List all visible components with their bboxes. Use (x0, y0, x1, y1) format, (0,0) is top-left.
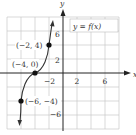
y-axis-label: y (59, 0, 65, 8)
x-axis: x (0, 70, 136, 79)
point-marker (46, 42, 51, 47)
x-tick-label: 6 (103, 77, 108, 86)
x-axis-arrow-icon (124, 71, 131, 76)
y-tick-label: −6 (50, 110, 61, 119)
curve-arrow-up-icon (50, 20, 55, 27)
y-tick-label: 2 (55, 56, 60, 65)
y-axis-arrow-icon (61, 9, 66, 16)
point-label: (−6, −4) (25, 97, 58, 106)
point-marker (18, 98, 23, 103)
x-tick-label: −2 (44, 77, 55, 86)
point-marker (32, 70, 37, 75)
point-label: (−2, 4) (16, 41, 43, 50)
function-label: y = f(x) (72, 22, 101, 31)
y-tick-label: 6 (55, 30, 60, 39)
x-axis-label: x (133, 70, 136, 79)
function-graph: y = f(x) x y −2 2 6 6 2 −6 (−2, 4) (−4, … (0, 0, 136, 135)
x-tick-label: 2 (75, 77, 80, 86)
point-label: (−4, 0) (12, 60, 39, 69)
